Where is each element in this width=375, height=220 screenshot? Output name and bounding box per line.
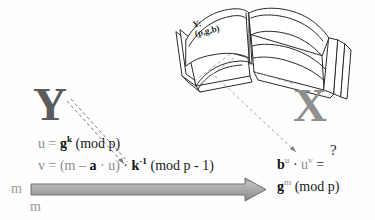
verifier-letter-x: X [293, 82, 327, 129]
formula-v-lhs: v [38, 158, 45, 173]
formula-v-k-exponent: -1 [139, 156, 147, 166]
formula-u: u = gk (mod p) [38, 137, 120, 151]
formula-v-dot1: · [100, 158, 105, 173]
formula-v: v = (m – a · u) · k-1 (mod p - 1) [38, 159, 214, 173]
message-label-bottom: m [30, 200, 41, 214]
formula-v-m: m [65, 158, 76, 173]
verify-b: b [277, 157, 285, 172]
verify-modulus: (mod p) [295, 179, 340, 194]
formula-u-eq: = [49, 136, 57, 151]
formula-u-base: g [60, 136, 67, 151]
verify-u-exponent: v [308, 155, 313, 165]
message-label-left: m [11, 182, 22, 196]
formula-v-minus: – [79, 158, 86, 173]
diagram-canvas: Y: (p,g,b) Y X u = gk (mod p) v = (m – a… [0, 0, 375, 220]
verification-line-1: bu · uv = [277, 158, 324, 172]
formula-v-a: a [89, 158, 96, 173]
verify-b-exponent: u [285, 155, 290, 165]
formula-u-modulus: (mod p) [76, 136, 121, 151]
formula-v-eq: = [49, 158, 57, 173]
verify-dot: · [293, 157, 298, 172]
verify-g: g [277, 179, 284, 194]
formula-u-exponent: k [67, 134, 72, 144]
verify-equals: = [316, 157, 324, 172]
formula-v-dot2: · [123, 158, 128, 173]
formula-v-modulus: (mod p - 1) [150, 158, 213, 173]
formula-v-close-paren: ) [115, 158, 120, 173]
verify-g-exponent: m [284, 177, 291, 187]
formula-u-lhs: u [38, 136, 45, 151]
signer-letter-y: Y [33, 81, 67, 128]
verification-line-2: gm (mod p) [277, 180, 339, 194]
verification-question-mark: ? [330, 143, 337, 158]
